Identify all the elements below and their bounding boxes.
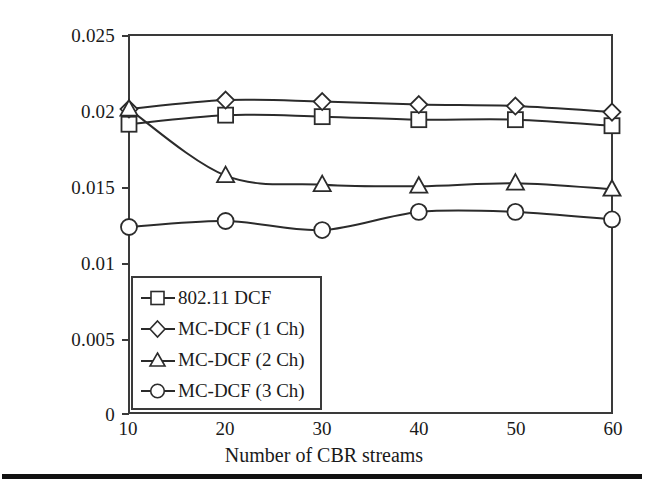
legend-label-mc-dcf-3ch: MC-DCF (3 Ch)	[177, 381, 305, 400]
x-tick-label-60: 60	[583, 418, 643, 440]
x-axis-title: Number of CBR streams	[0, 444, 648, 467]
figure-canvas: Channel access delay (s) 0.025 0.02 0.01…	[0, 0, 648, 498]
legend-item-mc-dcf-3ch[interactable]: MC-DCF (3 Ch)	[139, 375, 314, 406]
legend: 802.11 DCF MC-DCF (1 Ch) MC-DCF (2 Ch)	[131, 276, 322, 410]
legend-item-802-11-dcf[interactable]: 802.11 DCF	[139, 282, 314, 313]
legend-item-mc-dcf-2ch[interactable]: MC-DCF (2 Ch)	[139, 344, 314, 375]
y-tick-label-0.025: 0.025	[45, 25, 115, 47]
legend-label-mc-dcf-1ch: MC-DCF (1 Ch)	[177, 319, 305, 338]
x-tick-label-40: 40	[389, 418, 449, 440]
y-tick-label-0.015: 0.015	[45, 177, 115, 199]
y-tick-label-0.005: 0.005	[45, 329, 115, 351]
square-marker-icon	[139, 288, 177, 308]
legend-label-mc-dcf-2ch: MC-DCF (2 Ch)	[177, 350, 305, 369]
y-tick-label-0.02: 0.02	[45, 101, 115, 123]
y-tick-label-0.01: 0.01	[45, 253, 115, 275]
legend-label-802-11-dcf: 802.11 DCF	[177, 288, 271, 307]
footer-rule	[2, 474, 642, 479]
legend-item-mc-dcf-1ch[interactable]: MC-DCF (1 Ch)	[139, 313, 314, 344]
circle-marker-icon	[139, 381, 177, 401]
x-tick-label-50: 50	[486, 418, 546, 440]
triangle-marker-icon	[139, 350, 177, 370]
x-tick-label-30: 30	[292, 418, 352, 440]
x-tick-label-10: 10	[98, 418, 158, 440]
x-tick-label-20: 20	[195, 418, 255, 440]
diamond-marker-icon	[139, 319, 177, 339]
